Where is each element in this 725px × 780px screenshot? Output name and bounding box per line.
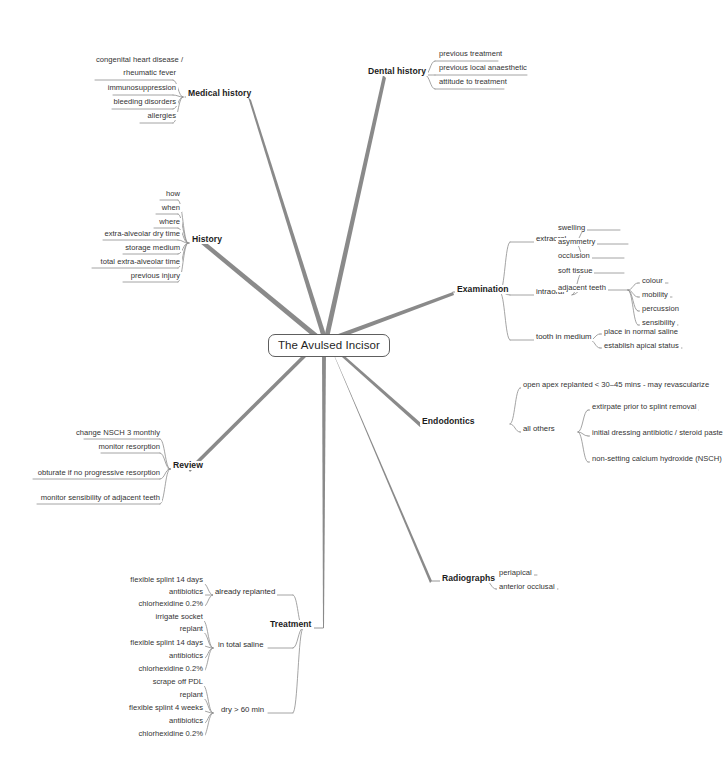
leaf-history-1[interactable]: when <box>60 204 182 212</box>
branch-examination[interactable]: Examination <box>455 285 511 294</box>
leaf-endodontics-all-others-1[interactable]: initial dressing antibiotic / steroid pa… <box>590 429 725 437</box>
leaf-endodontics-open-apex[interactable]: open apex replanted < 30–45 mins - may r… <box>521 381 711 389</box>
leaf-examination-intraoral-1[interactable]: adjacent teeth <box>556 284 608 292</box>
leaf-text: chlorhexidine 0.2% <box>138 729 203 738</box>
leaf-text: chlorhexidine 0.2% <box>138 664 203 673</box>
leaf-examination-extraoral-0[interactable]: swelling <box>556 224 587 232</box>
leaf-examination-extraoral-2[interactable]: occlusion <box>556 252 592 260</box>
leaf-adjacent-teeth-2[interactable]: percussion <box>640 305 681 313</box>
leaf-radiographs-0[interactable]: periapical <box>497 569 534 577</box>
branch-examination-label: Examination <box>457 284 509 294</box>
leaf-adjacent-teeth-1[interactable]: mobility <box>640 291 670 299</box>
leaf-text: congenital heart disease / <box>96 55 183 64</box>
leaf-treatment-saline-4[interactable]: chlorhexidine 0.2% <box>85 665 205 673</box>
branch-treatment-label: Treatment <box>270 619 312 629</box>
leaf-review-1[interactable]: monitor resorption <box>30 443 162 451</box>
leaf-treatment-dry-3[interactable]: antibiotics <box>85 717 205 725</box>
leaf-history-0[interactable]: how <box>60 190 182 198</box>
branch-treatment[interactable]: Treatment <box>268 620 314 629</box>
leaf-medical-history-1[interactable]: rheumatic fever <box>94 69 178 77</box>
leaf-adjacent-teeth-0[interactable]: colour <box>640 277 665 285</box>
leaf-text: rheumatic fever <box>123 68 176 77</box>
leaf-review-0[interactable]: change NSCH 3 monthly <box>30 429 162 437</box>
leaf-medical-history-3[interactable]: bleeding disorders <box>94 98 178 106</box>
leaf-review-2[interactable]: obturate if no progressive resorption <box>30 469 162 477</box>
branch-endodontics[interactable]: Endodontics <box>420 417 477 426</box>
leaf-medical-history-0[interactable]: congenital heart disease / <box>94 56 178 64</box>
leaf-text: replant <box>180 690 203 699</box>
leaf-text: initial dressing antibiotic / steroid pa… <box>592 428 723 437</box>
leaf-treatment-saline-3[interactable]: antibiotics <box>85 652 205 660</box>
leaf-endodontics-all-others-2[interactable]: non-setting calcium hydroxide (NSCH) <box>590 455 724 463</box>
group-label: dry > 60 min <box>221 705 264 714</box>
leaf-text: when <box>162 203 180 212</box>
leaf-history-4[interactable]: storage medium <box>60 244 182 252</box>
leaf-text: non-setting calcium hydroxide (NSCH) <box>592 454 722 463</box>
leaf-text: colour <box>642 276 663 285</box>
leaf-examination-extraoral-1[interactable]: asymmetry <box>556 238 597 246</box>
leaf-text: allergies <box>148 111 176 120</box>
leaf-text: mobility <box>642 290 668 299</box>
branch-radiographs-label: Radiographs <box>442 573 495 583</box>
branch-line-radiographs <box>332 350 432 583</box>
branch-medical-history[interactable]: Medical history <box>186 89 253 98</box>
leaf-text: anterior occlusal <box>499 582 555 591</box>
leaf-text: antibiotics <box>169 716 203 725</box>
branch-line-medical-history <box>248 97 327 338</box>
leaf-medical-history-4[interactable]: allergies <box>94 112 178 120</box>
leaf-text: percussion <box>642 304 679 313</box>
leaf-text: previous local anaesthetic <box>439 63 527 72</box>
group-label: in total saline <box>218 640 264 649</box>
leaf-history-6[interactable]: previous injury <box>60 272 182 280</box>
leaf-text: flexible splint 4 weeks <box>129 703 203 712</box>
branch-dental-history-label: Dental history <box>368 66 426 76</box>
leaf-treatment-saline-2[interactable]: flexible splint 14 days <box>85 639 205 647</box>
leaf-history-2[interactable]: where <box>60 218 182 226</box>
leaf-text: establish apical status <box>604 341 679 350</box>
leaf-text: occlusion <box>558 251 590 260</box>
leaf-text: storage medium <box>125 243 180 252</box>
leaf-treatment-dry-0[interactable]: scrape off PDL <box>85 678 205 686</box>
leaf-adjacent-teeth-3[interactable]: sensibility <box>640 319 677 327</box>
leaf-history-3[interactable]: extra-alveolar dry time <box>60 230 182 238</box>
leaf-treatment-dry-4[interactable]: chlorhexidine 0.2% <box>85 730 205 738</box>
leaf-treatment-saline-0[interactable]: irrigate socket <box>85 613 205 621</box>
leaf-tooth-in-medium-0[interactable]: place in normal saline <box>602 328 680 336</box>
group-treatment-in-total-saline[interactable]: in total saline <box>216 641 266 649</box>
branch-review[interactable]: Review <box>171 461 205 470</box>
branch-radiographs[interactable]: Radiographs <box>440 574 497 583</box>
leaf-endodontics-all-others-0[interactable]: extirpate prior to splint removal <box>590 403 698 411</box>
leaf-examination-intraoral-0[interactable]: soft tissue <box>556 267 594 275</box>
leaf-bracket-history <box>92 200 188 282</box>
leaf-dental-history-1[interactable]: previous local anaesthetic <box>437 64 529 72</box>
leaf-treatment-dry-1[interactable]: replant <box>85 691 205 699</box>
branch-endodontics-label: Endodontics <box>422 416 475 426</box>
leaf-text: place in normal saline <box>604 327 678 336</box>
leaf-treatment-already-replanted-1[interactable]: antibiotics <box>85 588 205 596</box>
leaf-treatment-saline-1[interactable]: replant <box>85 625 205 633</box>
leaf-text: monitor sensibility of adjacent teeth <box>41 493 160 502</box>
leaf-dental-history-2[interactable]: attitude to treatment <box>437 78 509 86</box>
leaf-text: previous injury <box>131 271 180 280</box>
group-endodontics-all-others[interactable]: all others <box>521 425 557 433</box>
leaf-treatment-already-replanted-2[interactable]: chlorhexidine 0.2% <box>85 600 205 608</box>
branch-line-treatment <box>322 348 326 628</box>
leaf-dental-history-0[interactable]: previous treatment <box>437 50 504 58</box>
leaf-text: swelling <box>558 223 585 232</box>
leaf-medical-history-2[interactable]: immunosuppression <box>94 84 178 92</box>
leaf-history-5[interactable]: total extra-alveolar time <box>60 258 182 266</box>
leaf-tooth-in-medium-1[interactable]: establish apical status <box>602 342 681 350</box>
leaf-radiographs-1[interactable]: anterior occlusal <box>497 583 557 591</box>
branch-dental-history[interactable]: Dental history <box>366 67 428 76</box>
group-examination-tooth-in-medium[interactable]: tooth in medium <box>534 333 593 341</box>
leaf-review-3[interactable]: monitor sensibility of adjacent teeth <box>30 494 162 502</box>
leaf-text: soft tissue <box>558 266 592 275</box>
branch-medical-history-label: Medical history <box>188 88 251 98</box>
leaf-text: obturate if no progressive resorption <box>38 468 160 477</box>
leaf-treatment-dry-2[interactable]: flexible splint 4 weeks <box>85 704 205 712</box>
central-node[interactable]: The Avulsed Incisor <box>268 334 390 357</box>
leaf-treatment-already-replanted-0[interactable]: flexible splint 14 days <box>85 576 205 584</box>
group-treatment-dry-60-min[interactable]: dry > 60 min <box>219 706 266 714</box>
branch-history[interactable]: History <box>190 235 224 244</box>
group-treatment-already-replanted[interactable]: already replanted <box>213 588 277 596</box>
